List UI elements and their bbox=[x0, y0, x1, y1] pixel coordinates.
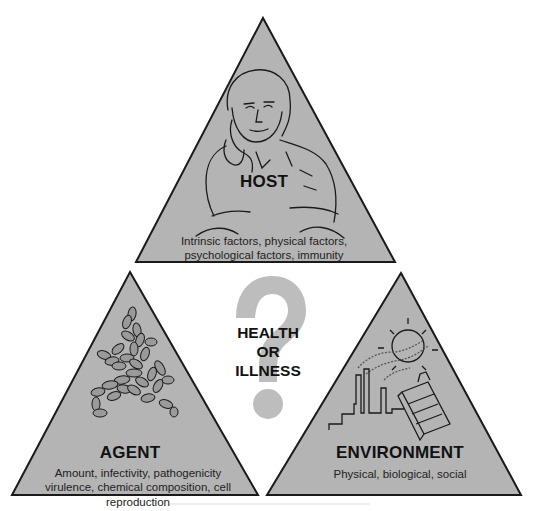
host-triangle bbox=[136, 18, 395, 262]
center-line-or: OR bbox=[222, 342, 314, 361]
environment-title: ENVIRONMENT bbox=[320, 443, 480, 463]
agent-title: AGENT bbox=[80, 443, 180, 463]
center-line-health: HEALTH bbox=[222, 323, 314, 342]
host-description-line2: psychological factors, immunity bbox=[163, 248, 365, 263]
host-title: HOST bbox=[214, 172, 314, 192]
agent-description-line1: Amount, infectivity, pathogenicity bbox=[20, 466, 256, 481]
host-description-line1: Intrinsic factors, physical factors, bbox=[163, 234, 365, 249]
faint-caption bbox=[170, 503, 370, 505]
agent-description-line2: virulence, chemical composition, cell re… bbox=[20, 480, 256, 510]
center-line-illness: ILLNESS bbox=[222, 361, 314, 380]
environment-description: Physical, biological, social bbox=[320, 467, 480, 482]
epidemiologic-triangle-diagram: HOST Intrinsic factors, physical factors… bbox=[0, 0, 534, 511]
